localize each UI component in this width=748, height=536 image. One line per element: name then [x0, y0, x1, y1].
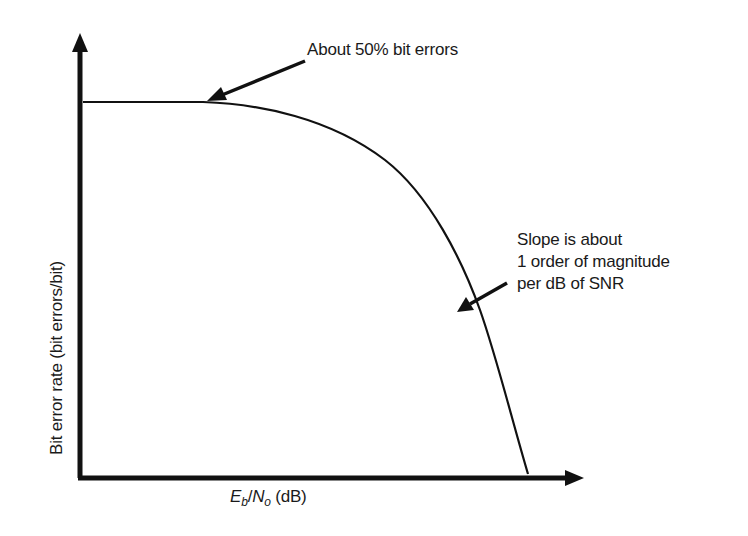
annotation-arrow-50pct: [222, 61, 305, 95]
annotation-50pct-bit-errors: About 50% bit errors: [307, 40, 458, 60]
annotation-arrow-slope: [470, 283, 507, 304]
annotation-arrowhead-50pct: [207, 87, 227, 101]
annotation-slope: Slope is about 1 order of magnitude per …: [517, 229, 670, 295]
x-label-N: N: [252, 487, 264, 506]
annotation-slope-line-1: Slope is about: [517, 229, 670, 251]
x-label-unit: (dB): [271, 487, 307, 506]
y-axis-label: Bit error rate (bit errors/bit): [47, 261, 67, 455]
annotation-slope-line-2: 1 order of magnitude: [517, 251, 670, 273]
x-label-E: E: [230, 487, 241, 506]
x-axis-arrowhead: [565, 470, 584, 486]
y-axis-arrowhead: [72, 33, 88, 52]
x-axis-label: Eb/No (dB): [230, 487, 307, 509]
ber-curve: [83, 102, 528, 474]
annotation-slope-line-3: per dB of SNR: [517, 273, 670, 295]
